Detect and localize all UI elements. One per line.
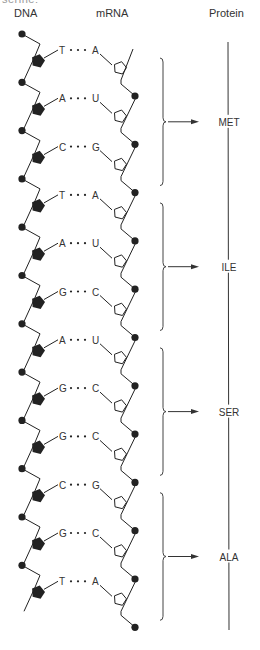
dna-base-label: A	[59, 238, 66, 249]
mrna-base-label: U	[92, 93, 99, 104]
translate-arrow-icon	[191, 119, 199, 124]
mrna-base-label: A	[92, 190, 99, 201]
dna-sugar-icon	[32, 586, 45, 599]
hydrogen-bond-dot	[84, 194, 86, 196]
hydrogen-bond-dot	[70, 435, 72, 437]
codon-groups: METILESERALA	[160, 58, 244, 620]
mrna-base-label: A	[92, 576, 99, 587]
dna-sugar-icon	[32, 54, 45, 67]
mrna-base-label: C	[92, 431, 99, 442]
mrna-base-label: C	[92, 528, 99, 539]
hydrogen-bond-dot	[84, 580, 86, 582]
transcription-translation-diagram: TAAUCGTAAUGCAUGCGCCGGCTA METILESERALA	[0, 0, 260, 650]
mrna-phosphate-icon	[131, 624, 138, 631]
dna-base-label: G	[59, 431, 67, 442]
hydrogen-bond-dot	[70, 49, 72, 51]
dna-sugar-icon	[32, 103, 45, 116]
dna-base-label: C	[59, 480, 66, 491]
dna-base-label: G	[59, 287, 67, 298]
codon-brace-icon	[160, 203, 166, 331]
dna-base-label: G	[59, 528, 67, 539]
hydrogen-bond-dot	[70, 532, 72, 534]
codon-brace-icon	[160, 493, 166, 621]
mrna-strand	[100, 49, 139, 631]
amino-acid-label: SER	[219, 407, 240, 418]
codon-brace-icon	[160, 58, 166, 186]
dna-sugar-icon	[32, 344, 45, 357]
dna-sugar-icon	[32, 489, 45, 502]
hydrogen-bond-dot	[77, 387, 79, 389]
hydrogen-bond-dot	[77, 49, 79, 51]
hydrogen-bond-dot	[77, 339, 79, 341]
dna-sugar-icon	[32, 537, 45, 550]
hydrogen-bond-dot	[84, 339, 86, 341]
mrna-base-label: U	[92, 335, 99, 346]
protein-chain-line	[228, 42, 229, 630]
hydrogen-bond-dot	[77, 146, 79, 148]
hydrogen-bond-dot	[84, 532, 86, 534]
mrna-base-label: A	[92, 45, 99, 56]
amino-acid-label: ILE	[221, 262, 236, 273]
hydrogen-bond-dot	[84, 290, 86, 292]
dna-base-label: A	[59, 93, 66, 104]
hydrogen-bond-dot	[84, 49, 86, 51]
dna-sugar-icon	[32, 296, 45, 309]
hydrogen-bond-dot	[77, 435, 79, 437]
hydrogen-bond-dot	[77, 484, 79, 486]
dna-base-label: T	[59, 576, 65, 587]
amino-acid-label: ALA	[220, 552, 239, 563]
hydrogen-bond-dot	[84, 387, 86, 389]
dna-sugar-icon	[32, 392, 45, 405]
dna-base-label: C	[59, 142, 66, 153]
hydrogen-bond-dot	[70, 290, 72, 292]
codon-brace-icon	[160, 348, 166, 476]
translate-arrow-icon	[191, 554, 199, 559]
hydrogen-bond-dot	[70, 97, 72, 99]
hydrogen-bond-dot	[84, 242, 86, 244]
hydrogen-bond-dot	[70, 484, 72, 486]
hydrogen-bond-dot	[77, 290, 79, 292]
mrna-base-label: C	[92, 383, 99, 394]
dna-base-label: T	[59, 45, 65, 56]
dna-sugar-icon	[32, 151, 45, 164]
mrna-sugar-icon	[115, 62, 127, 74]
dna-base-label: A	[59, 335, 66, 346]
dna-sugar-icon	[32, 247, 45, 260]
hydrogen-bond-dot	[84, 435, 86, 437]
dna-base-label: T	[59, 190, 65, 201]
dna-sugar-icon	[32, 199, 45, 212]
dna-sugar-icon	[32, 441, 45, 454]
hydrogen-bond-dot	[77, 532, 79, 534]
mrna-base-label: G	[92, 480, 100, 491]
hydrogen-bond-dot	[84, 146, 86, 148]
hydrogen-bond-dot	[70, 580, 72, 582]
base-pairs: TAAUCGTAAUGCAUGCGCCGGCTA	[59, 45, 100, 587]
dna-base-label: G	[59, 383, 67, 394]
hydrogen-bond-dot	[77, 580, 79, 582]
mrna-base-label: G	[92, 142, 100, 153]
hydrogen-bond-dot	[70, 194, 72, 196]
mrna-base-label: C	[92, 287, 99, 298]
hydrogen-bond-dot	[84, 97, 86, 99]
hydrogen-bond-dot	[77, 194, 79, 196]
dna-phosphate-icon	[18, 224, 25, 231]
hydrogen-bond-dot	[70, 387, 72, 389]
hydrogen-bond-dot	[70, 146, 72, 148]
amino-acid-label: MET	[218, 117, 239, 128]
translate-arrow-icon	[191, 264, 199, 269]
hydrogen-bond-dot	[70, 339, 72, 341]
translate-arrow-icon	[191, 409, 199, 414]
hydrogen-bond-dot	[70, 242, 72, 244]
hydrogen-bond-dot	[77, 97, 79, 99]
hydrogen-bond-dot	[84, 484, 86, 486]
mrna-base-label: U	[92, 238, 99, 249]
hydrogen-bond-dot	[77, 242, 79, 244]
dna-strand	[18, 30, 58, 611]
